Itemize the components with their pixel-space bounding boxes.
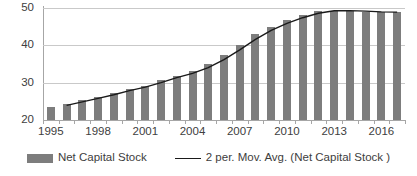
x-axis-tick <box>122 120 123 124</box>
moving-average-line <box>43 8 405 120</box>
x-axis-tick <box>59 120 60 124</box>
x-axis-tick <box>295 120 296 124</box>
x-axis-tick <box>153 120 154 124</box>
moving-average-polyline <box>67 11 398 106</box>
x-axis-tick-label: 2013 <box>321 126 347 138</box>
x-axis-tick-label: 2007 <box>227 126 253 138</box>
legend-bar-label: Net Capital Stock <box>58 152 147 164</box>
x-axis-tick <box>311 120 312 124</box>
plot-area <box>43 8 405 120</box>
x-axis-tick <box>106 120 107 124</box>
x-axis-tick <box>389 120 390 124</box>
x-axis-tick-label: 2016 <box>369 126 395 138</box>
x-axis-tick <box>342 120 343 124</box>
x-axis-tick <box>263 120 264 124</box>
y-axis-tick-label: 50 <box>0 2 34 14</box>
y-axis-tick-label: 40 <box>0 39 34 51</box>
x-axis-tick <box>279 120 280 124</box>
x-axis-tick <box>90 120 91 124</box>
y-axis-tick-label: 20 <box>0 114 34 126</box>
x-axis-tick <box>326 120 327 124</box>
x-axis-tick <box>216 120 217 124</box>
x-axis-tick-label: 1998 <box>85 126 111 138</box>
x-axis-tick-label: 1995 <box>38 126 64 138</box>
legend-line-swatch-icon <box>175 158 201 159</box>
x-axis-tick-label: 2010 <box>274 126 300 138</box>
chart-figure: 20304050 1995199820012004200720102013201… <box>0 0 417 176</box>
x-axis-tick <box>232 120 233 124</box>
x-axis-tick <box>248 120 249 124</box>
chart-legend: Net Capital Stock 2 per. Mov. Avg. (Net … <box>0 148 417 168</box>
x-axis-tick <box>137 120 138 124</box>
legend-entry-line: 2 per. Mov. Avg. (Net Capital Stock ) <box>175 152 390 164</box>
x-axis-tick <box>43 120 44 124</box>
y-axis-tick-label: 30 <box>0 77 34 89</box>
x-axis-tick <box>185 120 186 124</box>
legend-entry-bar: Net Capital Stock <box>27 152 147 164</box>
x-axis-tick-label: 2001 <box>133 126 159 138</box>
x-axis-tick <box>200 120 201 124</box>
legend-bar-swatch-icon <box>27 154 53 163</box>
x-axis-line <box>43 120 406 121</box>
x-axis-tick-label: 2004 <box>180 126 206 138</box>
legend-line-label: 2 per. Mov. Avg. (Net Capital Stock ) <box>206 152 390 164</box>
x-axis-tick <box>374 120 375 124</box>
x-axis-tick <box>358 120 359 124</box>
x-axis-tick <box>405 120 406 124</box>
x-axis-tick <box>74 120 75 124</box>
x-axis-tick <box>169 120 170 124</box>
